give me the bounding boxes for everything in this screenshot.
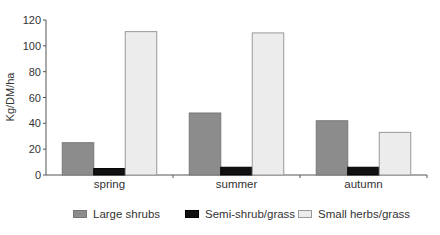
y-tick-label: 100 [23,40,41,52]
bar [379,132,411,175]
y-tick-label: 60 [29,92,41,104]
bar [94,169,126,175]
legend-item-semi-shrub-grass: Semi-shrub/grass [185,205,295,223]
y-axis-label: Kg/DM/ha [4,72,16,122]
legend-label: Semi-shrub/grass [205,208,295,220]
legend: Large shrubs Semi-shrub/grass Small herb… [0,205,440,223]
y-tick-label: 120 [23,14,41,26]
bar-chart: 020406080100120 springsummerautumn Kg/DM… [0,0,440,200]
y-tick-label: 40 [29,117,41,129]
legend-label: Large shrubs [93,208,160,220]
legend-swatch-small-herbs-grass [298,210,312,218]
legend-swatch-large-shrubs [73,210,87,218]
legend-swatch-semi-shrub-grass [185,210,199,218]
x-category-label: spring [94,178,125,190]
bars [62,32,411,175]
legend-label: Small herbs/grass [318,208,410,220]
bar [348,167,380,175]
legend-item-large-shrubs: Large shrubs [73,205,160,223]
y-tick-label: 80 [29,66,41,78]
bar [316,121,348,175]
bar [221,167,253,175]
legend-item-small-herbs-grass: Small herbs/grass [298,205,410,223]
x-category-label: summer [216,178,258,190]
y-tick-label: 0 [35,169,41,181]
x-category-label: autumn [344,178,382,190]
y-axis: 020406080100120 [23,14,46,181]
bar [62,143,94,175]
y-tick-label: 20 [29,143,41,155]
bar [125,32,157,175]
bar [189,113,221,175]
bar [252,33,284,175]
x-axis: springsummerautumn [46,175,427,190]
